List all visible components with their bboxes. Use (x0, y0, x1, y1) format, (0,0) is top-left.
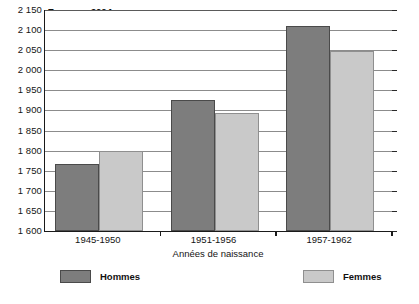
x-axis-tick-label: 1957-1962 (306, 234, 351, 245)
y-axis-tick-label: 1 600 (4, 226, 42, 236)
y-axis-tick-label: 1 700 (4, 186, 42, 196)
y-axis-tick-mark (392, 90, 397, 91)
y-axis-tick-mark (392, 70, 397, 71)
bar-femmes-1951-1956[interactable] (215, 113, 259, 231)
legend-item-hommes[interactable]: Hommes (60, 270, 140, 283)
y-axis-tick-label: 1 750 (4, 166, 42, 176)
gridline (45, 10, 392, 11)
legend-swatch-femmes (303, 270, 334, 283)
y-axis-tick-mark (392, 131, 397, 132)
y-axis-tick-mark (392, 10, 397, 11)
legend-item-femmes[interactable]: Femmes (303, 270, 382, 283)
y-axis-tick-label: 1 950 (4, 85, 42, 95)
plot-area (44, 10, 392, 232)
y-axis-tick-mark (392, 30, 397, 31)
y-axis-tick-label: 2 100 (4, 25, 42, 35)
y-axis-tick-mark (392, 110, 397, 111)
legend-swatch-hommes (60, 270, 91, 283)
y-axis: 2 1502 1002 0502 0001 9501 9001 8501 800… (0, 0, 42, 304)
legend-label-femmes: Femmes (343, 271, 382, 282)
bar-hommes-1945-1950[interactable] (55, 164, 99, 232)
bar-hommes-1951-1956[interactable] (171, 100, 215, 231)
x-axis-tick-label: 1951-1956 (191, 234, 236, 245)
y-axis-tick-mark (392, 151, 397, 152)
x-axis-title: Années de naissance (44, 248, 392, 259)
bar-femmes-1957-1962[interactable] (330, 51, 374, 231)
y-axis-tick-label: 1 650 (4, 206, 42, 216)
gridline (45, 30, 392, 31)
y-axis-tick-label: 1 800 (4, 146, 42, 156)
y-axis-tick-label: 1 900 (4, 105, 42, 115)
y-axis-tick-mark (392, 171, 397, 172)
y-axis-tick-mark (392, 231, 397, 232)
bar-chart-figure: 2 1502 1002 0502 0001 9501 9001 8501 800… (0, 0, 419, 304)
y-axis-tick-label: 2 050 (4, 45, 42, 55)
y-axis-tick-mark (392, 211, 397, 212)
bar-femmes-1945-1950[interactable] (99, 151, 143, 231)
x-axis-tick-label: 1945-1950 (75, 234, 120, 245)
legend-label-hommes: Hommes (100, 271, 140, 282)
chart-legend: Hommes Femmes (0, 270, 419, 292)
bar-hommes-1957-1962[interactable] (286, 26, 330, 231)
y-axis-tick-mark (392, 191, 397, 192)
y-axis-tick-label: 2 000 (4, 65, 42, 75)
y-axis-tick-label: 1 850 (4, 126, 42, 136)
y-axis-tick-mark (392, 50, 397, 51)
y-axis-tick-label: 2 150 (4, 5, 42, 15)
